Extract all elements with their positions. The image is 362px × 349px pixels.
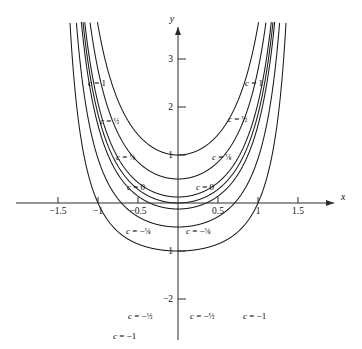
label-equals: = (190, 226, 200, 236)
label-equals: = (216, 152, 226, 162)
label-equals: = (131, 182, 141, 192)
curve-label-right-c-1: c = 1 (245, 78, 263, 88)
label-equals: = (249, 78, 259, 88)
label-value: 1 (259, 78, 264, 88)
curve-label-right-c-zero: c = 0 (196, 182, 214, 192)
label-value: −1 (257, 311, 267, 321)
curve-label-left-c-neg-half: c = −½ (128, 311, 152, 321)
label-value: 0 (141, 182, 146, 192)
label-fraction: ⅛ (130, 153, 136, 162)
level-curve-figure: −1.5−1−0.50.511.5321−1−2 x y c = 1c = ½c… (0, 0, 362, 349)
curve-label-left-c-zero: c = 0 (127, 182, 145, 192)
label-value: 1 (102, 78, 107, 88)
curve-label-right-c-eighth: c = ⅛ (212, 152, 231, 162)
label-equals: = (132, 311, 142, 321)
curve-label-left-c-neg-1: c = −1 (113, 331, 136, 341)
label-equals: = (247, 311, 257, 321)
curve-label-left-c-eighth: c = ⅛ (116, 152, 135, 162)
label-equals: = (104, 116, 114, 126)
curve-label-left-c-1: c = 1 (88, 78, 106, 88)
label-equals: = (120, 152, 130, 162)
curve-label-right-c-neg-eighth: c = −⅛ (186, 226, 210, 236)
label-fraction: ⅛ (226, 153, 232, 162)
label-value: −1 (127, 331, 137, 341)
label-value: 0 (210, 182, 215, 192)
curve-label-right-c-half: c = ½ (228, 114, 247, 124)
curve-labels-layer: c = 1c = ½c = ⅛c = 0c = 0c = ⅛c = ½c = 1… (0, 0, 362, 349)
curve-label-left-c-neg-eighth: c = −⅛ (126, 226, 150, 236)
curve-label-right-c-neg-half: c = −½ (190, 311, 214, 321)
label-equals: = (92, 78, 102, 88)
label-fraction: ⅛ (145, 227, 151, 236)
curve-label-left-c-half: c = ½ (100, 116, 119, 126)
label-equals: = (232, 114, 242, 124)
label-fraction: ⅛ (205, 227, 211, 236)
label-fraction: ½ (209, 312, 215, 321)
label-fraction: ½ (114, 117, 120, 126)
label-fraction: ½ (242, 115, 248, 124)
curve-label-right-c-neg-1: c = −1 (243, 311, 266, 321)
label-fraction: ½ (147, 312, 153, 321)
label-equals: = (130, 226, 140, 236)
label-equals: = (200, 182, 210, 192)
label-equals: = (117, 331, 127, 341)
label-equals: = (194, 311, 204, 321)
